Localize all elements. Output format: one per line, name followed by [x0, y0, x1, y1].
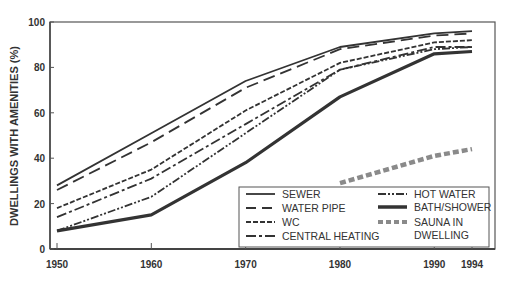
svg-text:SAUNA IN: SAUNA IN	[414, 216, 463, 228]
svg-text:DWELLING: DWELLING	[414, 229, 469, 241]
svg-text:WATER PIPE: WATER PIPE	[282, 202, 346, 214]
x-tick-label: 1960	[140, 259, 163, 270]
x-tick-label: 1990	[423, 259, 446, 270]
series-water-pipe	[57, 33, 472, 190]
legend: SEWER WATER PIPE WC CENTRAL HEATING HOT …	[239, 187, 492, 247]
y-tick-label: 80	[34, 62, 46, 73]
y-tick-label: 40	[34, 153, 46, 164]
x-tick-label: 1994	[461, 259, 484, 270]
x-tick-label: 1980	[329, 259, 352, 270]
svg-text:WC: WC	[282, 216, 300, 228]
svg-text:CENTRAL HEATING: CENTRAL HEATING	[282, 230, 379, 242]
x-tick-label: 1970	[235, 259, 258, 270]
series-sauna-in-dwelling	[340, 149, 472, 183]
y-axis-title: DWELLINGS WITH AMENITIES (%)	[8, 46, 20, 226]
y-tick-label: 100	[28, 17, 45, 28]
y-tick-label: 20	[34, 199, 46, 210]
svg-text:HOT WATER: HOT WATER	[414, 188, 476, 200]
svg-text:SEWER: SEWER	[282, 188, 321, 200]
y-tick-label: 60	[34, 108, 46, 119]
y-tick-label: 0	[39, 244, 45, 255]
line-chart: 020406080100 195019601970198019901994 DW…	[0, 0, 510, 285]
svg-text:BATH/SHOWER: BATH/SHOWER	[414, 201, 492, 213]
x-tick-label: 1950	[46, 259, 69, 270]
